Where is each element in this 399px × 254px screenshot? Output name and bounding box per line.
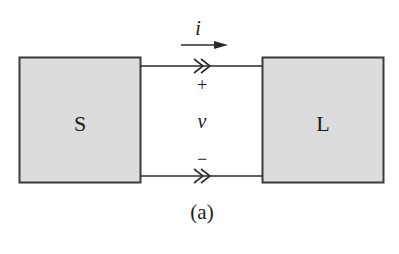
figure-caption: (a): [190, 202, 213, 223]
voltage-plus: +: [197, 76, 207, 94]
current-arrow-icon: [181, 41, 228, 49]
load-label: L: [316, 113, 329, 135]
voltage-minus: −: [197, 150, 207, 168]
source-label: S: [74, 113, 86, 135]
voltage-symbol: v: [198, 111, 207, 131]
current-symbol: i: [195, 18, 201, 38]
